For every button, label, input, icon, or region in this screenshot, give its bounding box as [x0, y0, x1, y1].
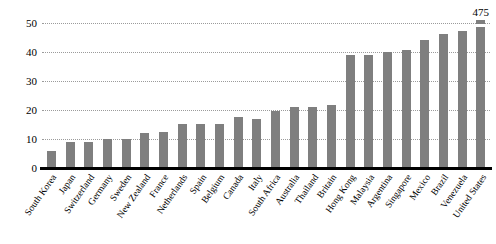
bar-france[interactable] [159, 132, 168, 168]
bar-venezuela[interactable] [458, 31, 467, 168]
bar-thailand[interactable] [308, 107, 317, 168]
bar-argentina[interactable] [383, 52, 392, 168]
bar-slot [415, 8, 434, 168]
bar-slot [266, 8, 285, 168]
x-label-slot: Canada [229, 171, 248, 244]
bar-united-states[interactable]: 475 [476, 20, 485, 168]
x-label-slot: Switzerland [79, 171, 98, 244]
x-label-slot: Hong Kong [341, 171, 360, 244]
x-label-slot: South Africa [266, 171, 285, 244]
bar-slot [79, 8, 98, 168]
bar-new-zealand[interactable] [140, 133, 149, 168]
bar-slot [210, 8, 229, 168]
x-label-slot: Australia [285, 171, 304, 244]
bar-brazil[interactable] [439, 34, 448, 168]
x-label-slot: Germany [98, 171, 117, 244]
bar-slot [453, 8, 472, 168]
y-axis-tick-label: 20 [26, 104, 37, 115]
bar-spain[interactable] [196, 124, 205, 168]
bar-slot [191, 8, 210, 168]
bar-slot [98, 8, 117, 168]
bar-italy[interactable] [252, 119, 261, 168]
bar-netherlands[interactable] [178, 124, 187, 168]
bar-slot [117, 8, 136, 168]
bar-south-africa[interactable] [271, 111, 280, 168]
y-axis-tick-label: 0 [32, 163, 38, 174]
y-axis-tick-label: 50 [26, 17, 37, 28]
x-label-slot: Malaysia [359, 171, 378, 244]
bar-slot [434, 8, 453, 168]
bar-slot [378, 8, 397, 168]
bar-slot [154, 8, 173, 168]
x-axis-label-south-korea: South Korea [24, 173, 59, 218]
x-label-slot: Singapore [397, 171, 416, 244]
bar-japan[interactable] [66, 142, 75, 168]
x-label-slot: Thailand [303, 171, 322, 244]
y-axis-tick-label: 30 [26, 75, 37, 86]
bar-slot [61, 8, 80, 168]
bar-mexico[interactable] [420, 40, 429, 168]
bar-belgium[interactable] [215, 124, 224, 168]
x-axis-labels: South KoreaJapanSwitzerlandGermanySweden… [42, 171, 490, 244]
bar-slot [341, 8, 360, 168]
bar-britain[interactable] [327, 105, 336, 168]
bar-sweden[interactable] [122, 139, 131, 168]
bar-hong-kong[interactable] [346, 55, 355, 168]
bar-canada[interactable] [234, 117, 243, 168]
x-label-slot: Mexico [415, 171, 434, 244]
bar-slot [173, 8, 192, 168]
bar-slot [359, 8, 378, 168]
x-label-slot: United States [471, 171, 490, 244]
bar-chart: 01020304050 475 South KoreaJapanSwitzerl… [0, 0, 496, 244]
bar-slot [397, 8, 416, 168]
bar-slot [247, 8, 266, 168]
bar-slot [135, 8, 154, 168]
y-axis-tick-label: 40 [26, 46, 37, 57]
x-label-slot: Netherlands [173, 171, 192, 244]
x-label-slot: Spain [191, 171, 210, 244]
bar-australia[interactable] [290, 107, 299, 168]
x-label-slot: Belgium [210, 171, 229, 244]
bar-slot [285, 8, 304, 168]
y-axis-tick-label: 10 [26, 133, 37, 144]
x-label-slot: New Zealand [135, 171, 154, 244]
x-label-slot: South Korea [42, 171, 61, 244]
plot-area: 01020304050 475 [42, 8, 490, 168]
x-axis-baseline [40, 167, 492, 170]
bar-slot [229, 8, 248, 168]
bar-slot [303, 8, 322, 168]
bar-value-label: 475 [473, 7, 490, 18]
bar-slot [322, 8, 341, 168]
bar-malaysia[interactable] [364, 55, 373, 168]
bar-slot [42, 8, 61, 168]
bar-switzerland[interactable] [84, 142, 93, 168]
bar-germany[interactable] [103, 139, 112, 168]
bar-south-korea[interactable] [47, 151, 56, 168]
bar-series: 475 [42, 8, 490, 168]
bar-singapore[interactable] [402, 50, 411, 168]
bar-slot: 475 [471, 8, 490, 168]
